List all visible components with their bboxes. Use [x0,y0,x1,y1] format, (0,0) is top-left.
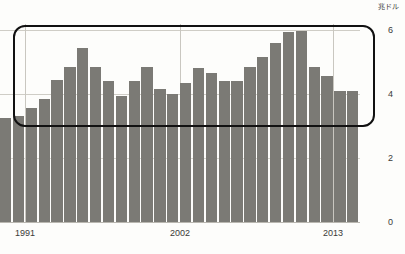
bar [26,108,37,222]
bar [90,67,101,222]
bar [0,118,11,222]
bar [244,67,255,222]
y-tick-label-6: 6 [388,26,393,35]
bar [154,89,165,222]
bar [64,67,75,222]
bar [270,43,281,222]
bar [231,81,242,222]
bar [334,91,345,222]
bar [103,81,114,222]
bar [51,80,62,222]
x-tick-label-2013: 2013 [323,228,343,238]
bar [283,32,294,222]
y-tick-label-4: 4 [388,90,393,99]
bar [116,96,127,222]
bar [141,67,152,222]
bar [39,99,50,222]
bar [13,116,24,222]
plot-area [0,0,360,222]
bar-chart: 兆ドル 6 4 2 0 1991 2002 2013 [0,0,405,254]
y-tick-label-2: 2 [388,154,393,163]
bar [257,57,268,222]
x-tick-label-2002: 2002 [170,228,190,238]
bar [77,48,88,222]
bar [206,73,217,222]
axis-baseline [0,222,360,223]
bar-series [0,0,360,222]
bar [167,94,178,222]
bar [129,81,140,222]
y-axis-unit-label: 兆ドル [378,3,399,11]
x-tick-label-1991: 1991 [15,228,35,238]
bar [193,68,204,222]
bar [296,31,307,222]
bar [180,83,191,222]
bar [309,67,320,222]
bar [347,91,358,222]
bar [321,76,332,222]
bar [219,81,230,222]
y-tick-label-0: 0 [388,218,393,227]
